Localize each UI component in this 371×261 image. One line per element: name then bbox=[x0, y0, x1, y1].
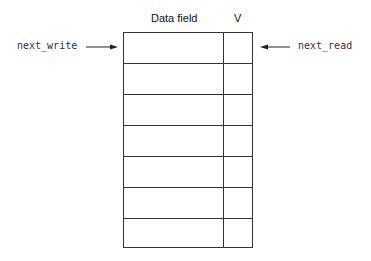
fifo-buffer-diagram: Data field V next_write next_read bbox=[0, 0, 371, 261]
pointer-arrows bbox=[0, 0, 371, 261]
next-write-arrow-icon bbox=[86, 45, 118, 50]
next-read-arrow-icon bbox=[260, 45, 290, 50]
